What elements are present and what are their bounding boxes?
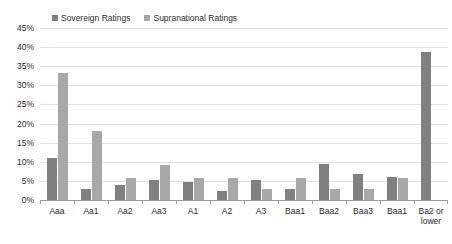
x-axis-cell: A1 bbox=[176, 200, 210, 244]
bar-group bbox=[414, 28, 448, 200]
x-axis-tickmark bbox=[142, 200, 143, 204]
bar-group bbox=[244, 28, 278, 200]
bar-chart: Sovereign Ratings Supranational Ratings … bbox=[0, 0, 452, 244]
y-axis-tick-label: 30% bbox=[17, 80, 34, 90]
x-axis-tick-label: Aaa bbox=[49, 206, 64, 216]
bar-supranational bbox=[228, 178, 238, 200]
bar-supranational bbox=[398, 178, 408, 200]
y-axis-tick-label: 20% bbox=[17, 119, 34, 129]
y-axis-tick-label: 40% bbox=[17, 42, 34, 52]
bar-sovereign bbox=[217, 191, 227, 200]
x-axis-tick-label: Baa2 bbox=[319, 206, 339, 216]
x-axis-tick-label: Baa1 bbox=[285, 206, 305, 216]
bar-group bbox=[346, 28, 380, 200]
x-axis-cell: Aaa bbox=[40, 200, 74, 244]
legend-swatch-sovereign bbox=[52, 15, 58, 21]
y-axis-tick-label: 35% bbox=[17, 61, 34, 71]
x-axis-cell: Ba2 or lower bbox=[414, 200, 448, 244]
y-axis-tick-label: 15% bbox=[17, 138, 34, 148]
bar-sovereign bbox=[319, 164, 329, 200]
bar-group bbox=[380, 28, 414, 200]
y-axis-tick-label: 5% bbox=[22, 176, 34, 186]
bar-supranational bbox=[364, 189, 374, 200]
bar-sovereign bbox=[115, 185, 125, 200]
x-axis-tick-label: Ba2 or lower bbox=[418, 206, 443, 226]
x-axis-tick-label: Aa2 bbox=[117, 206, 132, 216]
x-axis: AaaAa1Aa2Aa3A1A2A3Baa1Baa2Baa3Baa1Ba2 or… bbox=[40, 200, 448, 244]
bar-group bbox=[312, 28, 346, 200]
legend-item-sovereign: Sovereign Ratings bbox=[52, 13, 130, 23]
bar-sovereign bbox=[81, 189, 91, 200]
y-axis-tick-label: 25% bbox=[17, 99, 34, 109]
bar-group bbox=[142, 28, 176, 200]
bar-sovereign bbox=[353, 174, 363, 200]
bar-supranational bbox=[92, 131, 102, 200]
bar-group bbox=[210, 28, 244, 200]
bar-sovereign bbox=[183, 182, 193, 200]
x-axis-tickmark bbox=[40, 200, 41, 204]
x-axis-cell: Aa3 bbox=[142, 200, 176, 244]
y-axis-tick-label: 10% bbox=[17, 157, 34, 167]
x-axis-tickmark bbox=[414, 200, 415, 204]
x-axis-cell: Aa2 bbox=[108, 200, 142, 244]
bar-group bbox=[108, 28, 142, 200]
bar-supranational bbox=[330, 189, 340, 200]
legend-item-supranational: Supranational Ratings bbox=[144, 13, 237, 23]
x-axis-tick-label: A1 bbox=[188, 206, 198, 216]
x-axis-cell: A3 bbox=[244, 200, 278, 244]
chart-legend: Sovereign Ratings Supranational Ratings bbox=[52, 11, 237, 25]
bar-sovereign bbox=[47, 158, 57, 200]
x-axis-tickmark bbox=[244, 200, 245, 204]
bar-group bbox=[278, 28, 312, 200]
bar-supranational bbox=[160, 165, 170, 200]
x-axis-tickmark bbox=[210, 200, 211, 204]
x-axis-tickmark bbox=[108, 200, 109, 204]
x-axis-tickmark bbox=[176, 200, 177, 204]
legend-swatch-supranational bbox=[144, 15, 150, 21]
x-axis-cell: Aa1 bbox=[74, 200, 108, 244]
x-axis-tickmark bbox=[346, 200, 347, 204]
y-axis-tick-label: 45% bbox=[17, 23, 34, 33]
bar-supranational bbox=[296, 178, 306, 200]
x-axis-tick-label: Aa1 bbox=[83, 206, 98, 216]
x-axis-cell: A2 bbox=[210, 200, 244, 244]
x-axis-tickmark bbox=[312, 200, 313, 204]
plot-area bbox=[40, 28, 448, 200]
x-axis-cell: Baa1 bbox=[380, 200, 414, 244]
y-axis-tick-label: 0% bbox=[22, 195, 34, 205]
y-axis: 45%40%35%30%25%20%15%10%5%0% bbox=[0, 28, 38, 200]
bar-sovereign bbox=[285, 189, 295, 200]
bar-sovereign bbox=[149, 180, 159, 200]
x-axis-cell: Baa2 bbox=[312, 200, 346, 244]
x-axis-tickmark bbox=[380, 200, 381, 204]
x-axis-tickmark bbox=[278, 200, 279, 204]
bar-groups bbox=[40, 28, 448, 200]
bar-sovereign bbox=[387, 177, 397, 200]
bar-group bbox=[176, 28, 210, 200]
bar-sovereign bbox=[421, 52, 431, 200]
x-axis-cell: Baa1 bbox=[278, 200, 312, 244]
bar-supranational bbox=[58, 73, 68, 200]
x-axis-tick-label: A2 bbox=[222, 206, 232, 216]
x-axis-tick-label: Aa3 bbox=[151, 206, 166, 216]
bar-supranational bbox=[262, 189, 272, 200]
bar-group bbox=[74, 28, 108, 200]
x-axis-tick-label: Baa1 bbox=[387, 206, 407, 216]
legend-label-sovereign: Sovereign Ratings bbox=[61, 13, 130, 23]
bar-sovereign bbox=[251, 180, 261, 200]
x-axis-tickmark bbox=[447, 200, 448, 204]
x-axis-tickmark bbox=[74, 200, 75, 204]
legend-label-supranational: Supranational Ratings bbox=[153, 13, 237, 23]
bar-supranational bbox=[126, 178, 136, 200]
x-axis-tick-label: A3 bbox=[256, 206, 266, 216]
bar-group bbox=[40, 28, 74, 200]
bar-supranational bbox=[194, 178, 204, 200]
x-axis-tick-label: Baa3 bbox=[353, 206, 373, 216]
x-axis-cell: Baa3 bbox=[346, 200, 380, 244]
